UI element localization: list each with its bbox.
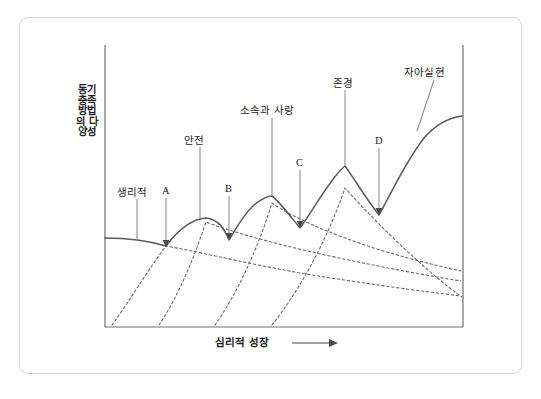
envelope-curve	[105, 116, 462, 246]
figure-root: 동기충족 방법의 다양성 심리적 성장 생리적 안전 소속과 사랑 존경 자아실…	[0, 0, 541, 399]
label-valley-a: A	[162, 185, 170, 197]
need-curve-1-dashed	[112, 246, 461, 325]
label-valley-b: B	[225, 183, 232, 195]
label-need-safety: 안전	[184, 134, 204, 146]
label-valley-d: D	[375, 135, 383, 147]
need-curve-3-dashed	[215, 203, 461, 325]
chart-canvas	[0, 0, 541, 399]
y-axis-label: 동기충족 방법의 다양성	[74, 84, 100, 137]
label-need-belonging: 소속과 사랑	[240, 104, 295, 116]
leader-self-actualization	[417, 80, 434, 131]
label-need-esteem: 존경	[333, 77, 353, 89]
x-direction-arrow-head	[329, 339, 338, 347]
label-need-self-actualization: 자아실현	[404, 66, 445, 78]
x-axis-label: 심리적 성장	[215, 334, 269, 349]
label-need-physiological: 생리적	[117, 186, 148, 198]
need-curve-2-dashed	[159, 222, 461, 325]
label-valley-c: C	[296, 157, 303, 169]
